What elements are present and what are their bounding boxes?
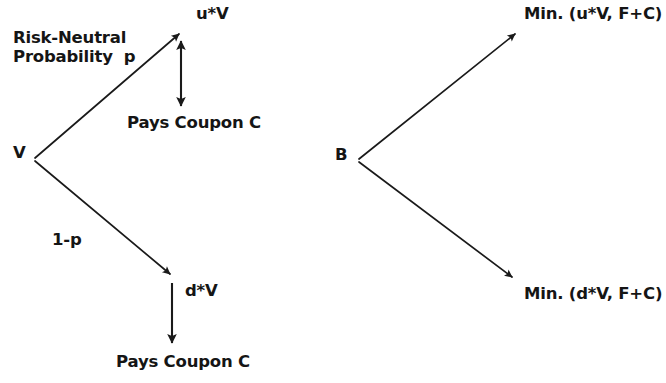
risk-neutral-probability-label: Risk-Neutral Probability p bbox=[13, 28, 135, 66]
bond-up-state-payoff-label: Min. (u*V, F+C) bbox=[524, 4, 662, 23]
bond-value-root-node-label: B bbox=[335, 145, 347, 164]
firm-value-root-node-label: V bbox=[13, 143, 26, 162]
right-up-branch-arrow bbox=[359, 34, 515, 159]
bond-down-state-payoff-label: Min. (d*V, F+C) bbox=[524, 284, 662, 303]
left-down-branch-arrow bbox=[35, 161, 170, 274]
up-state-coupon-label: Pays Coupon C bbox=[127, 113, 261, 132]
down-probability-label: 1-p bbox=[52, 230, 82, 249]
down-state-value-label: d*V bbox=[185, 281, 218, 300]
down-state-coupon-label: Pays Coupon C bbox=[116, 352, 250, 371]
up-state-value-label: u*V bbox=[196, 4, 229, 23]
diagram-canvas: Risk-Neutral Probability p u*V Pays Coup… bbox=[0, 0, 666, 383]
right-down-branch-arrow bbox=[359, 162, 512, 277]
